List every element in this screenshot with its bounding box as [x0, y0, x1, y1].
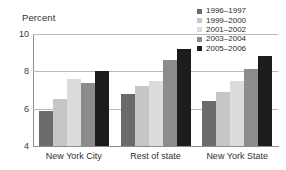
legend-item-label: 2003–2004: [206, 35, 246, 43]
bar: [177, 49, 191, 146]
legend-item: 2001–2002: [197, 26, 246, 34]
legend-swatch-icon: [197, 27, 202, 32]
legend-item: 2005–2006: [197, 45, 246, 53]
bar: [95, 71, 109, 146]
y-axis-tick-label: 4: [13, 142, 29, 151]
bar: [67, 79, 81, 146]
y-axis-tick-label: 10: [13, 30, 29, 39]
legend-swatch-icon: [197, 37, 202, 42]
legend-item-label: 2001–2002: [206, 26, 246, 34]
legend-item-label: 1999–2000: [206, 17, 246, 25]
bar: [230, 81, 244, 146]
bar-chart: Percent 46810 New York CityRest of state…: [0, 0, 286, 170]
legend-item-label: 1996–1997: [206, 7, 246, 15]
x-axis-category-label: New York City: [33, 151, 115, 161]
legend-item: 1996–1997: [197, 7, 246, 15]
legend-item-label: 2005–2006: [206, 45, 246, 53]
legend-item: 1999–2000: [197, 16, 246, 24]
bar: [202, 101, 216, 146]
y-axis-tick-label: 6: [13, 105, 29, 114]
legend-swatch-icon: [197, 9, 202, 14]
x-axis-category-label: New York State: [196, 151, 278, 161]
bar: [53, 99, 67, 146]
bar: [39, 111, 53, 146]
legend-swatch-icon: [197, 46, 202, 51]
bar: [244, 69, 258, 146]
bar-group: [39, 34, 109, 146]
bar: [121, 94, 135, 146]
legend: 1996–19971999–20002001–20022003–20042005…: [197, 7, 246, 53]
legend-swatch-icon: [197, 18, 202, 23]
bar: [135, 86, 149, 146]
bar: [258, 56, 272, 146]
bar: [216, 92, 230, 146]
x-axis-category-label: Rest of state: [115, 151, 197, 161]
x-axis-line: [33, 146, 279, 147]
bar: [163, 60, 177, 146]
y-axis-tick-label: 8: [13, 67, 29, 76]
bar: [81, 83, 95, 146]
bar: [149, 81, 163, 146]
bar-group: [121, 34, 191, 146]
legend-item: 2003–2004: [197, 35, 246, 43]
